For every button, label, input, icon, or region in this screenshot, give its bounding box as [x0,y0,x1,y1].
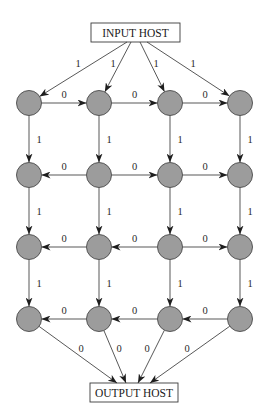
node-n43 [158,307,183,332]
edge-weight-label: 1 [75,58,80,69]
node-n32 [87,235,112,260]
edge-weight-label: 0 [132,89,137,100]
node-n21 [17,163,42,188]
input-host-label: INPUT HOST [102,27,169,39]
edge-weight-label: 1 [36,134,41,145]
edge-input-n12 [105,42,131,92]
edge-weight-label: 1 [190,58,195,69]
node-n41 [17,307,42,332]
edge-weight-label: 0 [61,161,66,172]
edge-weight-label: 0 [202,233,207,244]
node-n11 [17,91,42,116]
node-n33 [158,235,183,260]
edge-weight-label: 1 [36,278,41,289]
edge-weight-label: 0 [61,305,66,316]
output-host-label: OUTPUT HOST [95,387,173,399]
edge-weight-label: 0 [202,89,207,100]
input-host: INPUT HOST [91,23,180,42]
edge-weight-label: 0 [184,343,189,354]
edge-weight-label: 0 [132,305,137,316]
node-n12 [87,91,112,116]
edge-weight-label: 0 [144,343,149,354]
edge-weight-label: 1 [247,278,252,289]
edge-input-n14 [147,42,230,96]
node-n31 [17,235,42,260]
node-n23 [158,163,183,188]
node-n24 [228,163,253,188]
node-n44 [228,307,253,332]
node-n22 [87,163,112,188]
nodes [17,91,253,332]
edge-weight-label: 0 [202,305,207,316]
edge-weight-label: 1 [110,58,115,69]
edge-weight-label: 1 [106,278,111,289]
edge-weight-label: 1 [36,206,41,217]
edge-weight-label: 1 [106,206,111,217]
edge-weight-label: 0 [78,343,83,354]
edge-weight-label: 0 [132,233,137,244]
edge-weight-label: 0 [202,161,207,172]
edge-weight-label: 1 [247,206,252,217]
node-n34 [228,235,253,260]
edge-weight-label: 0 [116,343,121,354]
edge-weight-label: 1 [177,206,182,217]
edge-weight-label: 0 [61,89,66,100]
edge-n42-output [104,331,126,384]
edge-weight-label: 1 [106,134,111,145]
edge-weight-label: 1 [153,58,158,69]
output-host: OUTPUT HOST [90,383,178,402]
edge-weight-label: 0 [61,233,66,244]
edge-weight-label: 1 [177,134,182,145]
network-diagram: INPUT HOST OUTPUT HOST [0,0,266,419]
node-n14 [228,91,253,116]
edge-weight-label: 1 [177,278,182,289]
edge-labels: 1 1 1 1 0 0 0 1 1 1 1 0 0 0 1 1 1 1 0 0 … [36,58,252,354]
node-n13 [158,91,183,116]
edge-input-n13 [140,42,165,92]
edge-weight-label: 1 [247,134,252,145]
edge-weight-label: 0 [132,161,137,172]
node-n42 [87,307,112,332]
edge-input-n11 [40,42,127,96]
